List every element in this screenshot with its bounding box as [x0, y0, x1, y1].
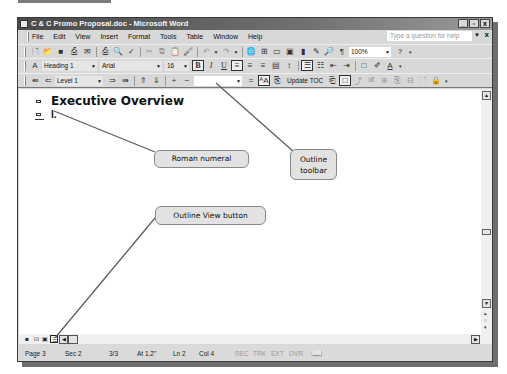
unlink-subdocument-icon[interactable]: ⎘: [391, 75, 403, 86]
menu-edit[interactable]: Edit: [53, 33, 65, 40]
master-document-view-icon[interactable]: □: [339, 75, 351, 86]
previous-page-icon[interactable]: ▴: [484, 310, 487, 316]
outline-level-select[interactable]: Level 1▼: [55, 76, 103, 86]
outline-minus-icon[interactable]: [36, 100, 41, 103]
close-document-button[interactable]: x: [485, 30, 489, 39]
scroll-up-icon[interactable]: ▲: [482, 91, 491, 100]
undo-dropdown-icon[interactable]: ▼: [213, 46, 219, 57]
menu-help[interactable]: Help: [248, 33, 262, 40]
print-preview-icon[interactable]: 🔍: [112, 46, 124, 57]
help-icon[interactable]: ?: [394, 46, 406, 57]
decrease-indent-icon[interactable]: ⇤: [327, 60, 339, 71]
line-spacing-icon[interactable]: ↕: [283, 60, 295, 71]
split-subdocument-icon[interactable]: 🗋: [417, 75, 429, 86]
permission-icon[interactable]: ⎙: [68, 46, 80, 57]
toolbar-grip[interactable]: [27, 32, 29, 42]
insert-subdocument-icon[interactable]: ⊕: [378, 75, 390, 86]
create-subdocument-icon[interactable]: 🗎: [365, 75, 377, 86]
minimize-button[interactable]: _: [458, 19, 468, 28]
zoom-select[interactable]: 100%▼: [349, 47, 391, 57]
outline-minus-icon[interactable]: [36, 113, 41, 116]
spelling-status-icon[interactable]: 📖: [311, 348, 322, 358]
horizontal-scroll-thumb[interactable]: [68, 335, 78, 344]
justify-icon[interactable]: ▤: [270, 60, 282, 71]
heading-text[interactable]: Executive Overview: [51, 94, 184, 108]
collapse-subdocuments-icon[interactable]: ⤴: [352, 75, 364, 86]
menu-window[interactable]: Window: [213, 33, 238, 40]
redo-dropdown-icon[interactable]: ▼: [233, 46, 239, 57]
italic-button[interactable]: I: [205, 60, 217, 71]
vertical-scrollbar[interactable]: ▲ ▼ ▴ ○ ▾: [481, 89, 492, 334]
web-layout-view-button[interactable]: ⊡: [32, 335, 40, 343]
status-rec[interactable]: REC: [235, 350, 253, 357]
next-page-icon[interactable]: ▾: [484, 324, 487, 330]
underline-button[interactable]: U: [218, 60, 230, 71]
format-painter-icon[interactable]: 🖌: [182, 46, 194, 57]
redo-icon[interactable]: ↷: [220, 46, 232, 57]
help-dropdown-icon[interactable]: ▼: [474, 32, 480, 38]
font-size-select[interactable]: 16▼: [165, 61, 189, 71]
expand-icon[interactable]: +: [168, 75, 180, 86]
style-select[interactable]: Heading 1▼: [42, 61, 97, 71]
scroll-right-icon[interactable]: ▶: [471, 335, 480, 344]
drawing-icon[interactable]: ✎: [310, 46, 322, 57]
numbering-icon[interactable]: ☰: [301, 60, 313, 71]
toolbar-options-icon[interactable]: ▾: [407, 46, 413, 57]
email-icon[interactable]: ✉: [81, 46, 93, 57]
highlight-icon[interactable]: ✐: [371, 60, 383, 71]
promote-to-heading1-icon[interactable]: ⇚: [29, 75, 41, 86]
promote-icon[interactable]: ⇐: [42, 75, 54, 86]
print-icon[interactable]: ⎙: [99, 46, 111, 57]
menu-file[interactable]: File: [32, 33, 43, 40]
scroll-thumb[interactable]: [482, 229, 491, 235]
font-color-icon[interactable]: A: [384, 60, 396, 71]
copy-icon[interactable]: ⧉: [156, 46, 168, 57]
normal-view-button[interactable]: ■: [23, 335, 31, 343]
tables-borders-icon[interactable]: ⊞: [258, 46, 270, 57]
go-to-toc-icon[interactable]: ⎗: [326, 75, 338, 86]
bold-button[interactable]: B: [192, 60, 204, 71]
border-icon[interactable]: □: [358, 60, 370, 71]
help-search-input[interactable]: Type a question for help: [387, 31, 472, 41]
demote-to-body-icon[interactable]: ⇛: [119, 75, 131, 86]
menu-view[interactable]: View: [75, 33, 90, 40]
show-hide-icon[interactable]: ¶: [336, 46, 348, 57]
show-level-select[interactable]: ▼: [194, 76, 242, 86]
align-right-icon[interactable]: ≡: [257, 60, 269, 71]
show-formatting-icon[interactable]: ᴬA: [258, 75, 270, 86]
toolbar-grip[interactable]: [24, 47, 26, 57]
font-select[interactable]: Arial▼: [100, 61, 162, 71]
restore-button[interactable]: ▫: [469, 19, 479, 28]
align-left-icon[interactable]: ≡: [231, 60, 243, 71]
hyperlink-icon[interactable]: 🌐: [245, 46, 257, 57]
lock-document-icon[interactable]: 🔒: [430, 75, 442, 86]
scroll-left-icon[interactable]: ◀: [59, 335, 68, 344]
print-layout-view-button[interactable]: ▣: [41, 335, 49, 343]
status-ext[interactable]: EXT: [271, 350, 289, 357]
update-toc-button[interactable]: Update TOC: [287, 77, 323, 84]
bullets-icon[interactable]: ☷: [314, 60, 326, 71]
update-toc-icon[interactable]: ⎘: [271, 75, 283, 86]
close-button[interactable]: x: [480, 19, 490, 28]
move-up-icon[interactable]: ⇑: [137, 75, 149, 86]
styles-pane-icon[interactable]: A: [29, 60, 41, 71]
insert-excel-icon[interactable]: ▣: [284, 46, 296, 57]
demote-icon[interactable]: ⇒: [106, 75, 118, 86]
undo-icon[interactable]: ↶: [200, 46, 212, 57]
scroll-down-icon[interactable]: ▼: [482, 299, 491, 308]
outline-heading-row[interactable]: Executive Overview: [36, 94, 184, 108]
new-icon[interactable]: 🗋: [29, 46, 41, 57]
align-center-icon[interactable]: ≡: [244, 60, 256, 71]
open-icon[interactable]: 📂: [42, 46, 54, 57]
columns-icon[interactable]: ▮: [297, 46, 309, 57]
menu-format[interactable]: Format: [128, 33, 150, 40]
toolbar-grip[interactable]: [24, 76, 26, 86]
toolbar-options-icon[interactable]: ▾: [397, 60, 403, 71]
increase-indent-icon[interactable]: ⇥: [340, 60, 352, 71]
move-down-icon[interactable]: ⇓: [150, 75, 162, 86]
insert-table-icon[interactable]: ▭: [271, 46, 283, 57]
menu-tools[interactable]: Tools: [160, 33, 176, 40]
status-ovr[interactable]: OVR: [289, 350, 311, 357]
paste-icon[interactable]: 📋: [169, 46, 181, 57]
show-first-line-icon[interactable]: =: [245, 75, 257, 86]
